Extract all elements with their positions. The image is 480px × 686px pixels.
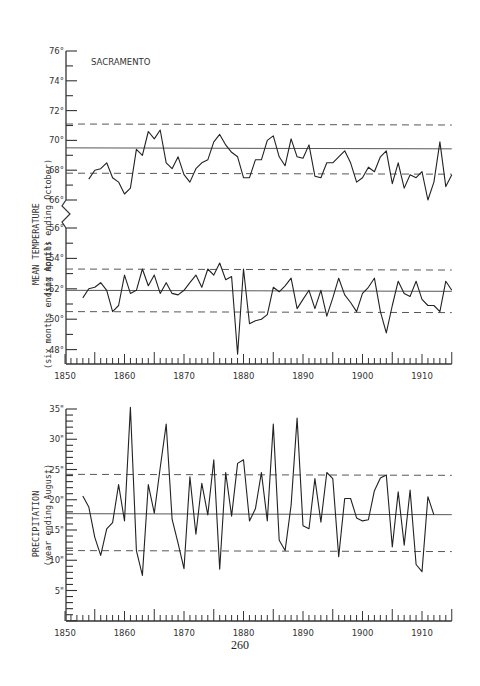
mean-line	[66, 290, 452, 291]
x-tick-label: 1910	[411, 371, 433, 381]
y-tick-label: 5"	[55, 586, 64, 596]
lower-bound-line	[66, 312, 452, 313]
x-tick-label: 1870	[173, 371, 195, 381]
precip-ylabel: PRECIPITATION	[31, 491, 41, 558]
precip-ylabel-sub: (year ending August)	[43, 464, 53, 566]
axis-break-icon	[62, 200, 70, 228]
summer-temperature-panel: 66°68°70°72°74°76°	[49, 46, 452, 205]
winter-temperature-panel: 48°50°52°54°56°	[49, 200, 452, 364]
x-tick-label: 1890	[292, 371, 314, 381]
data-series-line	[83, 407, 434, 575]
x-tick-label: 1900	[352, 628, 374, 638]
y-tick-label: 35"	[49, 404, 64, 414]
x-tick-label: 1860	[114, 371, 136, 381]
winter-ylabel-sub: (six months ending April)	[43, 241, 53, 369]
chart-figure: 66°68°70°72°74°76° 48°50°52°54°56° 18501…	[0, 0, 480, 686]
x-tick-label: 1850	[54, 628, 76, 638]
lower-bound-line	[66, 551, 452, 552]
x-tick-label: 1880	[233, 371, 255, 381]
y-tick-label: 30"	[49, 434, 64, 444]
x-tick-label: 1910	[411, 628, 433, 638]
x-tick-label: 1900	[352, 371, 374, 381]
data-series-line	[89, 130, 452, 200]
temperature-ylabel: MEAN TEMPERATURE	[31, 203, 41, 285]
y-tick-label: 70°	[49, 135, 64, 145]
page-number: 260	[0, 638, 480, 653]
temperature-x-axis: 1850186018701880189019001910	[54, 352, 452, 381]
y-tick-label: 76°	[49, 46, 64, 56]
chart-title: SACRAMENTO	[91, 57, 151, 67]
mean-line	[66, 148, 452, 149]
data-series-line	[83, 263, 452, 354]
precipitation-panel: 5"10"15"20"25"30"35"	[49, 404, 451, 621]
x-tick-label: 1890	[292, 628, 314, 638]
upper-bound-line	[66, 124, 452, 125]
precipitation-x-axis: 1850186018701880189019001910	[54, 609, 452, 638]
y-tick-label: 74°	[49, 76, 64, 86]
x-tick-label: 1870	[173, 628, 195, 638]
x-tick-label: 1860	[114, 628, 136, 638]
upper-bound-line	[66, 474, 452, 475]
lower-bound-line	[66, 173, 452, 174]
y-tick-label: 72°	[49, 106, 64, 116]
x-tick-label: 1880	[233, 628, 255, 638]
x-tick-label: 1850	[54, 371, 76, 381]
upper-bound-line	[66, 269, 452, 270]
